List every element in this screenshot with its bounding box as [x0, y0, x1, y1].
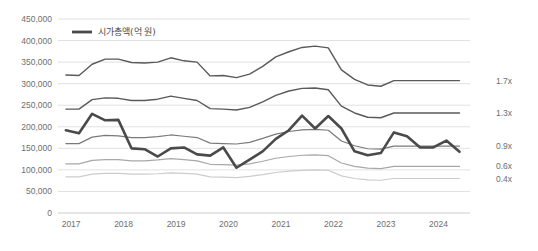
y-axis-tick-label: 0	[47, 208, 52, 218]
x-axis-tick-label: 2023	[377, 219, 396, 229]
chart-container: 050,000100,000150,000200,000250,000300,0…	[0, 0, 538, 251]
multiplier-label-0-6x: 0.6x	[496, 161, 513, 171]
y-axis-tick-label: 50,000	[26, 186, 52, 196]
x-axis-tick-label: 2018	[114, 219, 133, 229]
multiplier-label-0-9x: 0.9x	[496, 141, 513, 151]
y-axis-tick-label: 400,000	[21, 36, 52, 46]
x-axis-tick-label: 2017	[62, 219, 81, 229]
y-axis-tick-label: 200,000	[21, 122, 52, 132]
x-axis-tick-label: 2022	[324, 219, 343, 229]
multiplier-label-1-3x: 1.3x	[496, 108, 513, 118]
multiplier-label-0-4x: 0.4x	[496, 174, 513, 184]
y-axis-tick-label: 350,000	[21, 57, 52, 67]
multiplier-label-1-7x: 1.7x	[496, 76, 513, 86]
x-axis-tick-label: 2019	[167, 219, 186, 229]
market-cap-line-chart: 050,000100,000150,000200,000250,000300,0…	[0, 0, 538, 251]
x-axis-tick-label: 2020	[219, 219, 238, 229]
legend-label-market-cap: 시가총액(억 원)	[98, 26, 156, 37]
y-axis-tick-label: 450,000	[21, 14, 52, 24]
x-axis-tick-label: 2021	[272, 219, 291, 229]
y-axis-tick-label: 250,000	[21, 100, 52, 110]
y-axis-tick-label: 150,000	[21, 143, 52, 153]
y-axis-tick-label: 300,000	[21, 79, 52, 89]
y-axis-tick-label: 100,000	[21, 165, 52, 175]
x-axis-tick-label: 2024	[429, 219, 448, 229]
